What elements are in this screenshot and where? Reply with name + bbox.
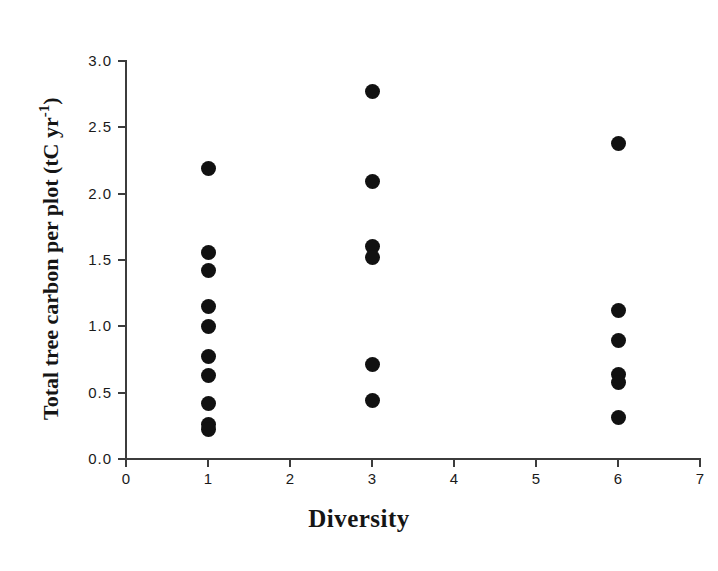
y-axis-tick-label: 0.0 — [66, 450, 112, 467]
y-axis-tick — [118, 325, 125, 327]
data-point — [201, 368, 216, 383]
data-point — [365, 393, 380, 408]
y-axis-tick-label: 1.5 — [66, 251, 112, 268]
y-axis-title: Total tree carbon per plot (tC yr-1) — [36, 49, 63, 469]
data-point — [611, 333, 626, 348]
data-point — [201, 396, 216, 411]
x-axis-tick — [535, 460, 537, 467]
y-axis-tick-label: 3.0 — [66, 52, 112, 69]
x-axis-tick — [289, 460, 291, 467]
x-axis-tick — [699, 460, 701, 467]
data-point — [365, 250, 380, 265]
y-axis-tick-label: 1.0 — [66, 317, 112, 334]
y-axis-tick-label: 0.5 — [66, 384, 112, 401]
x-axis-tick — [207, 460, 209, 467]
data-point — [201, 263, 216, 278]
x-axis-tick-label: 3 — [357, 470, 387, 487]
x-axis-tick-label: 4 — [439, 470, 469, 487]
data-point — [365, 174, 380, 189]
data-point — [201, 349, 216, 364]
x-axis-tick-label: 7 — [685, 470, 715, 487]
data-point — [201, 319, 216, 334]
data-point — [611, 375, 626, 390]
y-axis-tick-label: 2.5 — [66, 118, 112, 135]
x-axis-tick — [453, 460, 455, 467]
y-axis-tick — [118, 392, 125, 394]
scatter-plot-figure: 0.00.51.01.52.02.53.0 01234567 Total tre… — [0, 0, 718, 571]
data-point — [611, 303, 626, 318]
x-axis-tick — [371, 460, 373, 467]
x-axis-tick-label: 0 — [111, 470, 141, 487]
y-axis-title-superscript: -1 — [36, 105, 52, 117]
x-axis-tick-label: 1 — [193, 470, 223, 487]
data-point — [201, 161, 216, 176]
x-axis-tick — [125, 460, 127, 467]
data-point — [365, 357, 380, 372]
y-axis-tick — [118, 193, 125, 195]
y-axis-tick — [118, 259, 125, 261]
x-axis-tick-label: 5 — [521, 470, 551, 487]
data-point — [201, 245, 216, 260]
y-axis-tick — [118, 60, 125, 62]
x-axis-tick-label: 6 — [603, 470, 633, 487]
data-point — [611, 410, 626, 425]
plot-area — [126, 61, 700, 459]
y-axis-tick — [118, 458, 125, 460]
y-axis-tick-label: 2.0 — [66, 185, 112, 202]
x-axis-title: Diversity — [0, 505, 718, 533]
data-point — [201, 422, 216, 437]
x-axis-tick — [617, 460, 619, 467]
x-axis-tick-label: 2 — [275, 470, 305, 487]
y-axis-tick — [118, 126, 125, 128]
data-point — [201, 299, 216, 314]
data-point — [365, 84, 380, 99]
data-point — [611, 136, 626, 151]
